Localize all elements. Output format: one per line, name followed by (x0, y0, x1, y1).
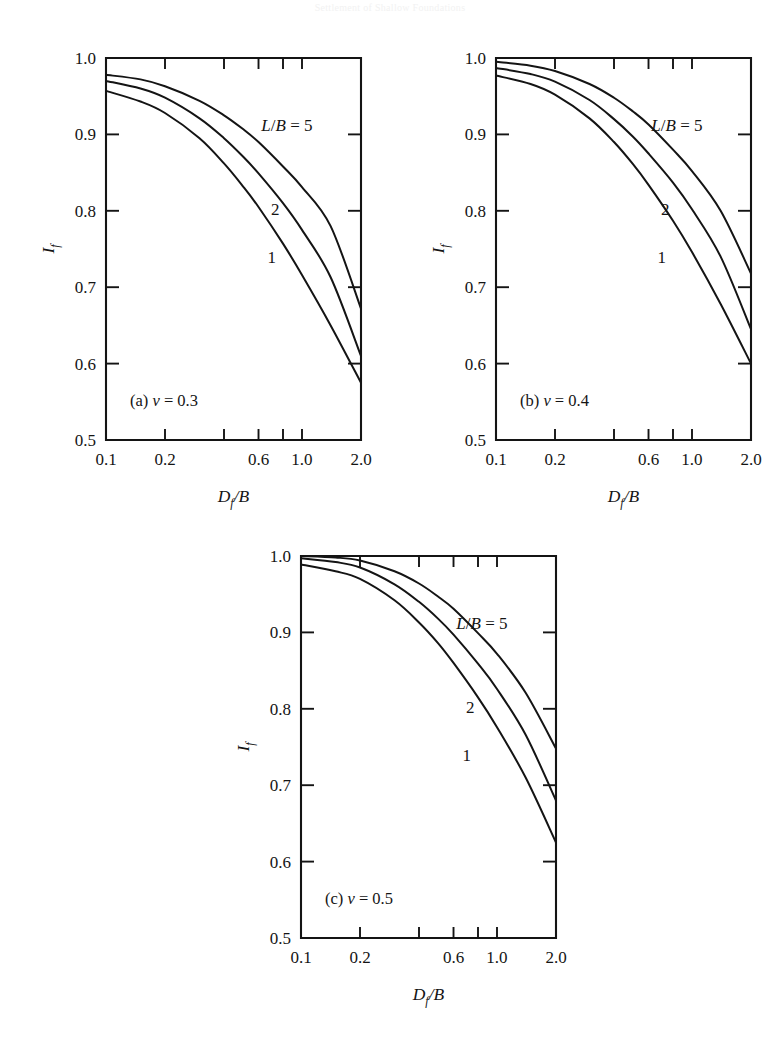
x-tick-label: 1.0 (486, 948, 507, 967)
series-label-2: 1 (657, 248, 666, 267)
y-tick-label: 0.6 (75, 355, 96, 374)
plot-frame (496, 58, 751, 440)
series-curve-0 (106, 75, 361, 309)
y-tick-label: 0.5 (75, 431, 96, 450)
y-tick-label: 0.8 (465, 202, 486, 221)
chart-svg-b: 0.10.20.61.02.00.50.60.70.80.91.0L/B = 5… (404, 30, 779, 520)
x-axis-title: Df/B (607, 486, 640, 510)
panel-caption: (b) ν = 0.4 (520, 391, 589, 410)
y-tick-label: 0.7 (270, 776, 292, 795)
x-tick-label: 0.6 (638, 450, 659, 469)
series-label-1: 2 (466, 698, 475, 717)
x-tick-label: 2.0 (545, 948, 566, 967)
y-tick-label: 0.5 (465, 431, 486, 450)
x-tick-label: 0.1 (485, 450, 506, 469)
x-tick-label: 0.1 (290, 948, 311, 967)
x-tick-label: 0.6 (443, 948, 464, 967)
y-axis-title: If (38, 243, 62, 255)
x-tick-label: 0.6 (248, 450, 269, 469)
panel-caption: (a) ν = 0.3 (130, 391, 198, 410)
y-tick-label: 1.0 (465, 49, 486, 68)
y-axis-title-group: If (38, 243, 62, 255)
series-label-1: 2 (271, 200, 280, 219)
series-label-0: L/B = 5 (260, 116, 312, 135)
series-curve-2 (496, 76, 751, 364)
y-axis-title-group: If (233, 741, 257, 753)
chart-svg-c: 0.10.20.61.02.00.50.60.70.80.91.0L/B = 5… (209, 528, 584, 1018)
y-axis-title: If (233, 741, 257, 753)
chart-panel-a: 0.10.20.61.02.00.50.60.70.80.91.0L/B = 5… (14, 30, 389, 520)
x-tick-label: 2.0 (740, 450, 761, 469)
chart-svg-a: 0.10.20.61.02.00.50.60.70.80.91.0L/B = 5… (14, 30, 389, 520)
series-label-1: 2 (661, 200, 670, 219)
series-label-0: L/B = 5 (455, 614, 507, 633)
chart-panel-b: 0.10.20.61.02.00.50.60.70.80.91.0L/B = 5… (404, 30, 779, 520)
series-label-2: 1 (267, 248, 276, 267)
y-tick-label: 1.0 (270, 547, 291, 566)
y-tick-label: 0.5 (270, 929, 291, 948)
y-axis-title-group: If (428, 243, 452, 255)
y-tick-label: 0.7 (465, 278, 487, 297)
x-tick-label: 1.0 (681, 450, 702, 469)
x-tick-label: 0.2 (154, 450, 175, 469)
x-axis-title: Df/B (217, 486, 250, 510)
y-tick-label: 0.8 (270, 700, 291, 719)
y-axis-title: If (428, 243, 452, 255)
x-tick-label: 1.0 (291, 450, 312, 469)
x-tick-label: 0.1 (95, 450, 116, 469)
plot-frame (106, 58, 361, 440)
panel-caption: (c) ν = 0.5 (325, 889, 393, 908)
y-tick-label: 0.8 (75, 202, 96, 221)
x-axis-title: Df/B (412, 984, 445, 1008)
series-curve-2 (106, 91, 361, 383)
y-tick-label: 0.7 (75, 278, 97, 297)
plot-frame (301, 556, 556, 938)
x-tick-label: 2.0 (350, 450, 371, 469)
y-tick-label: 0.9 (465, 125, 486, 144)
series-label-2: 1 (462, 746, 471, 765)
y-tick-label: 0.9 (270, 623, 291, 642)
y-tick-label: 1.0 (75, 49, 96, 68)
x-tick-label: 0.2 (349, 948, 370, 967)
series-label-0: L/B = 5 (650, 116, 702, 135)
running-header: Settlement of Shallow Foundations (0, 2, 780, 13)
series-curve-2 (301, 564, 556, 842)
x-tick-label: 0.2 (544, 450, 565, 469)
y-tick-label: 0.6 (270, 853, 291, 872)
chart-panel-c: 0.10.20.61.02.00.50.60.70.80.91.0L/B = 5… (209, 528, 584, 1018)
figure-page: Settlement of Shallow Foundations 0.10.2… (0, 0, 780, 1048)
y-tick-label: 0.9 (75, 125, 96, 144)
y-tick-label: 0.6 (465, 355, 486, 374)
